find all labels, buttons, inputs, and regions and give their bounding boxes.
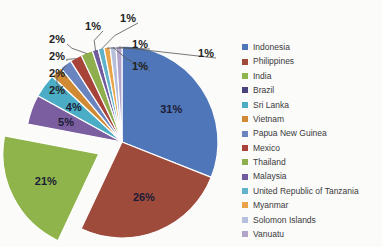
legend-swatch-icon [242, 87, 248, 93]
legend-item-label: Brazil [253, 86, 274, 95]
legend-item[interactable]: Thailand [240, 155, 382, 169]
legend-item-label: Mexico [253, 144, 280, 153]
slice-percent-label: 26% [133, 191, 155, 203]
chart-legend: IndonesiaPhilippinesIndiaBrazilSri Lanka… [240, 40, 382, 241]
legend-item[interactable]: Solomon Islands [240, 213, 382, 227]
legend-item-label: Myanmar [253, 201, 288, 210]
legend-item-label: Thailand [253, 158, 286, 167]
legend-item-label: Malaysia [253, 172, 287, 181]
slice-percent-label: 1% [132, 60, 148, 72]
legend-item[interactable]: Papua New Guinea [240, 126, 382, 140]
pie-slices [3, 46, 218, 241]
slice-percent-label: 4% [66, 101, 82, 113]
legend-item-label: Indonesia [253, 43, 290, 52]
legend-item-label: Vanuatu [253, 230, 284, 239]
legend-item[interactable]: Myanmar [240, 198, 382, 212]
slice-percent-label: 5% [58, 116, 74, 128]
legend-swatch-icon [242, 217, 248, 223]
legend-item[interactable]: India [240, 69, 382, 83]
legend-item[interactable]: Vanuatu [240, 227, 382, 241]
legend-swatch-icon [242, 202, 248, 208]
legend-item[interactable]: United Republic of Tanzania [240, 184, 382, 198]
slice-percent-label: 1% [85, 20, 101, 32]
legend-swatch-icon [242, 159, 248, 165]
slice-percent-label: 1% [120, 12, 136, 24]
legend-item[interactable]: Indonesia [240, 40, 382, 54]
legend-item-label: Philippines [253, 57, 294, 66]
legend-item-label: Solomon Islands [253, 216, 316, 225]
legend-item[interactable]: Vietnam [240, 112, 382, 126]
legend-swatch-icon [242, 59, 248, 65]
legend-item[interactable]: Sri Lanka [240, 98, 382, 112]
legend-swatch-icon [242, 44, 248, 50]
legend-item-label: Sri Lanka [253, 101, 289, 110]
legend-swatch-icon [242, 131, 248, 137]
pie-chart: 31%26%21%5%4%2%2%2%2%1%1%1%1%1% Indonesi… [0, 0, 382, 247]
legend-item[interactable]: Brazil [240, 83, 382, 97]
slice-percent-label: 31% [160, 103, 182, 115]
legend-item[interactable]: Philippines [240, 54, 382, 68]
legend-swatch-icon [242, 231, 248, 237]
slice-percent-label: 21% [35, 175, 57, 187]
slice-percent-label: 2% [49, 33, 65, 45]
legend-item-label: United Republic of Tanzania [253, 187, 359, 196]
legend-item[interactable]: Malaysia [240, 170, 382, 184]
legend-swatch-icon [242, 102, 248, 108]
legend-item-label: Vietnam [253, 115, 284, 124]
leader-line [67, 44, 87, 54]
slice-percent-label: 2% [49, 50, 65, 62]
legend-swatch-icon [242, 73, 248, 79]
legend-swatch-icon [242, 188, 248, 194]
legend-swatch-icon [242, 174, 248, 180]
slice-percent-label: 2% [49, 67, 65, 79]
legend-item-label: India [253, 72, 271, 81]
legend-swatch-icon [242, 145, 248, 151]
legend-item[interactable]: Mexico [240, 141, 382, 155]
slice-percent-label: 2% [49, 84, 65, 96]
legend-swatch-icon [242, 116, 248, 122]
slice-percent-label: 1% [132, 38, 148, 50]
legend-item-label: Papua New Guinea [253, 129, 327, 138]
slice-percent-label: 1% [198, 47, 214, 59]
